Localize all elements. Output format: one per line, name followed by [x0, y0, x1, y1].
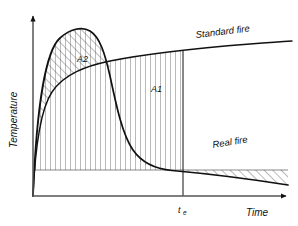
- region-label-A1: A1: [150, 84, 162, 94]
- te-tick-label: t e: [178, 205, 187, 216]
- diagram-canvas: Temperature Time Standard fire Real fire…: [0, 0, 298, 226]
- x-axis-label: Time: [246, 207, 269, 218]
- y-axis-label: Temperature: [8, 91, 19, 148]
- real-fire-label: Real fire: [212, 134, 249, 150]
- te-subscript: e: [183, 209, 187, 216]
- region-label-A2: A2: [76, 54, 88, 64]
- standard-fire-label: Standard fire: [195, 22, 250, 40]
- te-symbol: t: [178, 205, 181, 215]
- fire-curve-diagram: Temperature Time Standard fire Real fire…: [0, 0, 298, 226]
